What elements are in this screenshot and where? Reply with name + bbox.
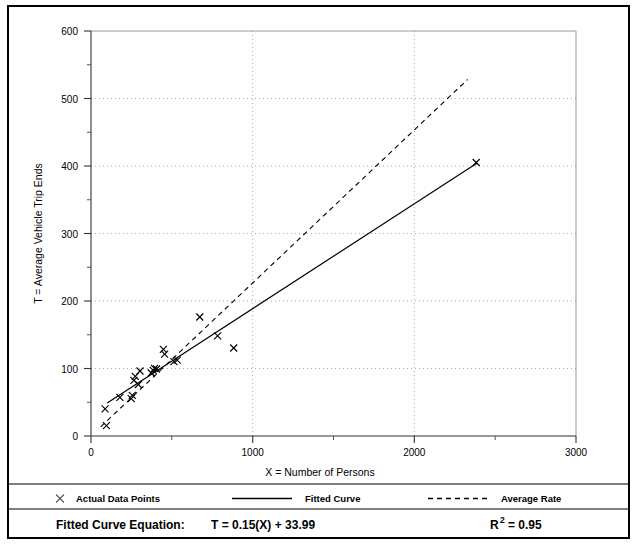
x-axis-title: X = Number of Persons (265, 466, 374, 478)
legend-label-fitted-curve: Fitted Curve (305, 493, 360, 504)
r-squared-exponent: 2 (500, 515, 505, 525)
legend-label-average-rate: Average Rate (501, 493, 561, 504)
legend-label-actual-data-points: Actual Data Points (76, 493, 160, 504)
y-tick-label-300: 300 (61, 229, 78, 240)
r-squared-value: = 0.95 (508, 518, 542, 532)
fitted-curve-equation-value: T = 0.15(X) + 33.99 (211, 518, 315, 532)
legend-x-marker-icon (56, 495, 64, 503)
y-tick-label-100: 100 (61, 364, 78, 375)
y-axis-major-ticks (84, 31, 91, 436)
x-tick-label-2000: 2000 (403, 447, 426, 458)
scatter-plot-svg: 600 500 400 300 200 100 0 0 1000 2000 30… (0, 0, 639, 547)
r-squared-prefix: R (490, 518, 499, 532)
x-tick-label-0: 0 (88, 447, 94, 458)
legend-item-average-rate[interactable]: Average Rate (428, 493, 561, 504)
y-axis-title: T = Average Vehicle Trip Ends (32, 163, 44, 304)
y-tick-label-200: 200 (61, 296, 78, 307)
y-tick-label-0: 0 (72, 431, 78, 442)
y-tick-label-600: 600 (61, 26, 78, 37)
x-tick-label-1000: 1000 (242, 447, 265, 458)
y-tick-label-500: 500 (61, 94, 78, 105)
legend-item-actual-data-points[interactable]: Actual Data Points (56, 493, 160, 504)
x-tick-label-3000: 3000 (565, 447, 588, 458)
x-axis-minor-ticks (172, 436, 495, 440)
fitted-curve-equation-label: Fitted Curve Equation: (56, 518, 185, 532)
y-tick-label-400: 400 (61, 161, 78, 172)
legend-item-fitted-curve[interactable]: Fitted Curve (232, 493, 360, 504)
